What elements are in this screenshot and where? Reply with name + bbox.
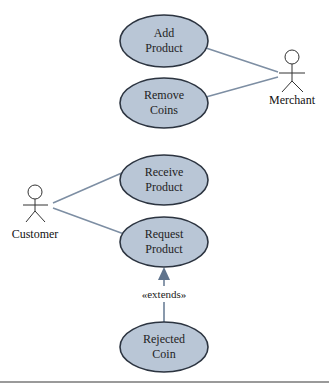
use-case-rejected-coin[interactable]: Rejected Coin <box>120 322 208 372</box>
actor-customer[interactable]: Customer <box>12 185 59 241</box>
use-case-remove-coins[interactable]: Remove Coins <box>120 78 208 128</box>
stick-figure-icon <box>23 185 48 222</box>
association-merchant-remove-coins <box>206 77 278 97</box>
use-case-label-line2: Product <box>145 242 183 256</box>
use-case-label-line1: Add <box>154 26 175 40</box>
use-case-add-product[interactable]: Add Product <box>120 15 208 67</box>
extends-label: «extends» <box>142 288 187 300</box>
use-case-label-line1: Request <box>145 227 184 241</box>
use-case-label-line2: Product <box>145 180 183 194</box>
use-case-label-line1: Rejected <box>143 332 185 346</box>
actor-label: Customer <box>12 227 59 241</box>
association-merchant-add-product <box>206 48 278 72</box>
use-case-label-line1: Receive <box>145 165 184 179</box>
actor-merchant[interactable]: Merchant <box>269 50 316 107</box>
actor-label: Merchant <box>269 93 316 107</box>
association-customer-request-product <box>53 208 124 234</box>
use-case-label-line1: Remove <box>144 88 184 102</box>
extends-arrowhead-icon <box>158 267 170 280</box>
stick-figure-icon <box>279 50 305 92</box>
use-case-label-line2: Product <box>145 41 183 55</box>
use-case-receive-product[interactable]: Receive Product <box>120 155 208 205</box>
use-case-label-line2: Coins <box>150 103 178 117</box>
use-case-label-line2: Coin <box>152 347 175 361</box>
use-case-diagram: «extends» Add Product Remove Coins Recei… <box>0 0 329 383</box>
association-customer-receive-product <box>53 172 124 203</box>
use-case-request-product[interactable]: Request Product <box>120 217 208 267</box>
